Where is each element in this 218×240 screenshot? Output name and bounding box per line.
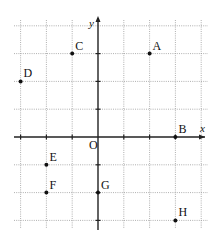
origin-label: O — [89, 138, 98, 152]
point-d — [19, 79, 23, 83]
point-a — [148, 52, 152, 56]
point-label-e: E — [49, 150, 56, 164]
point-label-g: G — [101, 178, 110, 192]
point-label-h: H — [178, 205, 187, 219]
y-axis-label: y — [88, 17, 94, 29]
y-axis-arrow-icon — [96, 16, 101, 22]
x-axis-label: x — [199, 122, 205, 134]
point-f — [44, 191, 48, 195]
point-label-a: A — [153, 39, 162, 53]
coordinate-plane-diagram: xyOABCDEFGH — [0, 0, 218, 240]
point-e — [44, 163, 48, 167]
point-b — [173, 135, 177, 139]
point-label-f: F — [49, 178, 56, 192]
point-label-b: B — [178, 122, 186, 136]
point-label-d: D — [24, 66, 33, 80]
point-label-c: C — [75, 39, 83, 53]
x-axis-arrow-icon — [199, 135, 205, 140]
coordinate-plane-svg: xyOABCDEFGH — [0, 0, 218, 240]
point-c — [70, 52, 74, 56]
point-g — [96, 191, 100, 195]
point-h — [173, 218, 177, 222]
